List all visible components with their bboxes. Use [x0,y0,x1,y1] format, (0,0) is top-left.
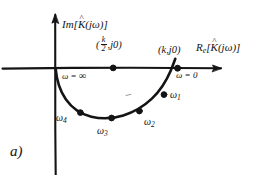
paren-close: ) [118,39,122,50]
real-axis-arrowhead [212,65,221,72]
figure-caption: a) [10,144,23,159]
imaginary-axis-label-prefix: Im [62,18,74,30]
imaginary-part: j0 [169,44,177,55]
imaginary-axis-label-close: ] [103,18,107,30]
fraction-k-over-2: k2 [100,36,108,53]
stray-pencil-mark [126,94,131,95]
annotation-omega-4: ω4 [56,113,67,125]
omega-subscript: 4 [63,116,67,125]
infinity-symbol: ∞ [79,70,86,81]
zero-value: 0 [193,70,198,80]
axis-point-k-label: (k,j0) [158,45,180,56]
circumflex-accent-icon: ^ [212,37,216,46]
real-axis-label-close: ] [236,41,240,53]
real-axis-label-arg: (jω) [218,41,236,53]
paren-close: ) [177,44,181,55]
annotation-omega-1: ω1 [170,90,181,102]
imaginary-axis-label-arg: (jω) [85,18,103,30]
plot-canvas [0,0,261,175]
omega-symbol: ω [97,125,104,136]
annotation-omega-infinity: ω = ∞ [62,71,86,81]
omega-symbol: ω [56,112,63,123]
real-axis-label: Re[^K(jω)] [196,41,240,55]
curve-point-omega-4-marker [78,110,84,116]
circumflex-accent-icon: ^ [80,14,84,23]
omega-subscript: 3 [104,129,108,138]
real-axis-label-prefix: R [196,41,203,53]
annotation-omega-3: ω3 [97,126,108,138]
omega-subscript: 1 [177,93,181,102]
curve-point-omega-1-marker [161,92,167,98]
imaginary-axis-label: Im[^K(jω)] [62,18,108,30]
omega-symbol: ω [144,116,151,127]
curve-point-omega-2-marker [137,108,143,114]
imaginary-axis-arrowhead [52,14,59,23]
imaginary-axis-line [55,15,56,175]
fraction-denominator: 2 [101,45,107,53]
omega-symbol: ω [170,89,177,100]
annotation-omega-2: ω2 [144,117,155,129]
imaginary-axis-label-fn-hat-group: ^K [78,18,85,30]
real-axis-label-fn-hat-group: ^K [211,41,218,53]
annotation-omega-zero: ω = 0 [176,71,197,80]
nyquist-plot-figure: ... Im[^K(jω)] [0,0,261,175]
omega-subscript: 2 [151,120,155,129]
curve-point-omega-3-marker [109,115,115,121]
axis-point-k-over-2-marker [110,65,116,71]
axis-point-k-over-2-label: (k2,j0) [96,36,122,53]
